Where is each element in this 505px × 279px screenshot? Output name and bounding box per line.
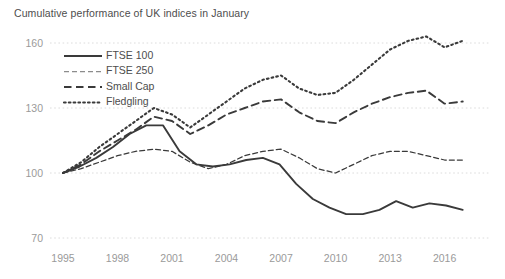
- chart-legend: FTSE 100FTSE 250Small CapFledgling: [64, 49, 155, 108]
- legend-label-ftse-100: FTSE 100: [106, 49, 153, 61]
- series-lines-group: [63, 37, 463, 215]
- x-axis-tick-label: 2016: [433, 252, 457, 264]
- y-axis-tick-label: 70: [31, 232, 43, 244]
- legend-label-fledgling: Fledgling: [106, 95, 149, 107]
- legend-label-ftse-250: FTSE 250: [106, 64, 153, 76]
- chart-container: Cumulative performance of UK indices in …: [0, 0, 505, 279]
- x-axis-tick-label: 2010: [324, 252, 348, 264]
- series-line-ftse-250: [63, 149, 463, 173]
- y-axis-tick-labels: 70100130160: [25, 37, 43, 244]
- chart-plot-area: 70100130160 1995199820012004200720102013…: [0, 0, 505, 279]
- y-axis-tick-label: 160: [25, 37, 43, 49]
- x-axis-tick-label: 2007: [269, 252, 293, 264]
- y-axis-tick-label: 130: [25, 102, 43, 114]
- x-axis-tick-label: 2001: [160, 252, 184, 264]
- x-axis-tick-labels: 19951998200120042007201020132016: [51, 252, 456, 264]
- x-axis-tick-label: 2013: [378, 252, 402, 264]
- legend-label-small-cap: Small Cap: [106, 80, 155, 92]
- x-axis-tick-label: 2004: [215, 252, 239, 264]
- x-axis-tick-label: 1995: [51, 252, 75, 264]
- series-line-ftse-100: [63, 125, 463, 214]
- x-axis-tick-label: 1998: [106, 252, 130, 264]
- y-axis-tick-label: 100: [25, 167, 43, 179]
